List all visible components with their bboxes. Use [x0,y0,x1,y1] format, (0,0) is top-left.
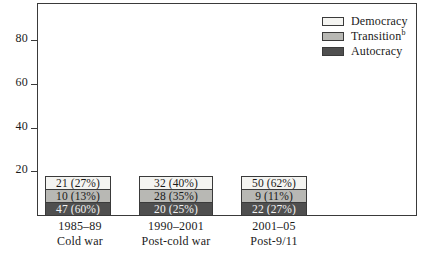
legend-swatch-autocracy-icon [322,47,344,56]
bar-segment-transition: 9 (11%) [242,189,306,202]
y-axis: 80 60 40 20 [0,0,37,219]
bar-segment-autocracy: 20 (25%) [140,202,212,215]
legend-footnote-marker: b [401,28,405,37]
stacked-bar-chart: 80 60 40 20 21 (27%) 10 (13%) 47 (60%) [0,0,425,255]
bar-group-post-911: 50 (62%) 9 (11%) 22 (27%) [241,176,307,216]
y-tick-label: 20 [16,163,28,175]
y-tick-label: 80 [16,32,28,44]
x-axis-label-period: 2001–05 [252,219,295,233]
x-axis-label-period: 1985–89 [58,219,101,233]
x-axis-label-post-911: 2001–05 Post-9/11 [218,219,330,249]
bar-segment-label: 21 (27%) [56,177,100,189]
bar-segment-democracy: 50 (62%) [242,177,306,189]
bar-segment-autocracy: 22 (27%) [242,202,306,215]
bar-segment-label: 50 (62%) [252,177,296,189]
x-axis-label-period: 1990–2001 [148,219,204,233]
bar-segment-label: 20 (25%) [154,203,198,215]
legend-label: Transitionb [351,29,406,43]
bar-segment-label: 47 (60%) [56,203,100,215]
bar-segment-autocracy: 47 (60%) [46,202,110,215]
y-tick-label: 60 [16,76,28,88]
bar-segment-democracy: 21 (27%) [46,177,110,189]
legend-label-text: Transition [351,29,401,43]
bar-segment-democracy: 32 (40%) [140,177,212,189]
legend-item-transition: Transitionb [322,29,420,43]
bar-segment-label: 10 (13%) [56,190,100,202]
x-axis-label-era: Post-cold war [120,234,232,249]
y-tick-label: 40 [16,120,28,132]
legend-swatch-democracy-icon [322,17,344,26]
x-axis-labels: 1985–89 Cold war 1990–2001 Post-cold war… [37,219,417,255]
x-axis-label-post-cold-war: 1990–2001 Post-cold war [120,219,232,249]
bar-segment-transition: 28 (35%) [140,189,212,202]
bar-segment-label: 9 (11%) [255,190,293,202]
bar-segment-transition: 10 (13%) [46,189,110,202]
bar-segment-label: 32 (40%) [154,177,198,189]
legend: Democracy Transitionb Autocracy [322,14,420,59]
x-axis-label-era: Post-9/11 [218,234,330,249]
bar-segment-label: 22 (27%) [252,203,296,215]
legend-item-autocracy: Autocracy [322,44,420,58]
bar-segment-label: 28 (35%) [154,190,198,202]
bar-group-cold-war: 21 (27%) 10 (13%) 47 (60%) [45,176,111,216]
legend-swatch-transition-icon [322,32,344,41]
legend-label: Democracy [351,15,408,28]
bar-group-post-cold-war: 32 (40%) 28 (35%) 20 (25%) [139,176,213,216]
legend-label: Autocracy [351,45,402,58]
legend-item-democracy: Democracy [322,14,420,28]
